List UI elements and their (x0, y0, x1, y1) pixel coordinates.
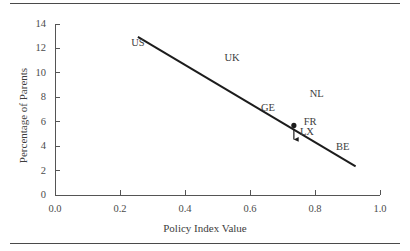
x-tick-label: 0.0 (48, 204, 61, 215)
point-label-be: BE (336, 142, 349, 153)
x-tick-label: 0.6 (243, 204, 256, 215)
trend-line (138, 37, 356, 166)
point-label-us: US (131, 38, 144, 49)
point-label-nl: NL (310, 89, 324, 100)
y-axis-title: Percentage of Parents (18, 46, 29, 186)
x-axis-title: Policy Index Value (0, 223, 410, 234)
x-tick-label: 0.4 (178, 204, 191, 215)
figure-container: 024681012140.00.20.40.60.81.0USUKGENLFRL… (0, 0, 410, 251)
point-label-ge: GE (261, 102, 275, 113)
point-label-uk: UK (225, 52, 240, 63)
axis-ticks (55, 24, 380, 195)
axis-lines (55, 24, 380, 195)
data-series (138, 37, 356, 166)
data-point-marker (291, 123, 296, 128)
y-tick-label: 14 (0, 19, 46, 30)
point-label-lx: LX (300, 127, 314, 138)
x-tick-label: 1.0 (373, 204, 386, 215)
x-tick-label: 0.8 (308, 204, 321, 215)
y-tick-label: 0 (0, 190, 46, 201)
x-tick-label: 0.2 (113, 204, 126, 215)
